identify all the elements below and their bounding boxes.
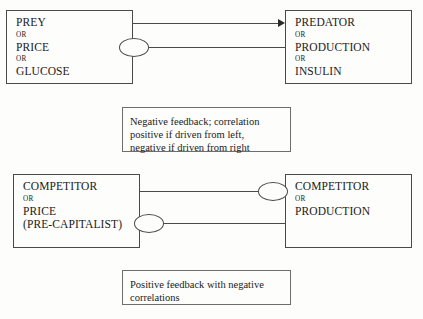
node-conjunction: or [16, 54, 128, 65]
diagram-canvas: PREY or PRICE or GLUCOSE PREDATOR or PRO… [0, 0, 423, 319]
node-conjunction: or [295, 194, 407, 205]
caption-line: positive if driven from left, [130, 128, 290, 141]
arrowhead-icon [278, 19, 285, 27]
node-term: PREDATOR [295, 16, 407, 30]
connector-line-prey-predator-arrow [133, 23, 279, 24]
node-label-group: PREDATOR or PRODUCTION or INSULIN [295, 16, 407, 79]
caption-line: correlations [130, 291, 290, 304]
node-term: COMPETITOR [23, 180, 135, 194]
connector-line-predator-prey-ellipse [148, 47, 285, 48]
node-box-predator: PREDATOR or PRODUCTION or INSULIN [285, 10, 412, 84]
caption-line: Negative feedback; correlation [130, 115, 290, 128]
node-conjunction: or [23, 194, 135, 205]
node-term: PRODUCTION [295, 41, 407, 55]
node-box-competitor-production: COMPETITOR or PRODUCTION [285, 174, 412, 248]
node-box-prey: PREY or PRICE or GLUCOSE [6, 10, 133, 84]
caption-line: Positive feedback with negative [130, 278, 290, 291]
node-term: INSULIN [295, 65, 407, 79]
node-term: PRODUCTION [295, 205, 407, 219]
node-conjunction: or [295, 54, 407, 65]
node-term: PRICE [16, 41, 128, 55]
node-term: PREY [16, 16, 128, 30]
ellipse-marker-icon [258, 182, 288, 201]
node-label-group: PREY or PRICE or GLUCOSE [16, 16, 128, 79]
node-conjunction: or [295, 30, 407, 41]
ellipse-marker-icon [119, 38, 149, 57]
caption-box-positive-feedback: Positive feedback with negative correlat… [122, 270, 291, 305]
connector-line-competitor-lower [163, 223, 285, 224]
connector-line-competitor-upper [140, 191, 272, 192]
caption-box-negative-feedback: Negative feedback; correlation positive … [122, 107, 291, 152]
node-label-group: COMPETITOR or PRICE (PRE-CAPITALIST) [23, 180, 135, 232]
ellipse-marker-icon [134, 214, 164, 233]
node-term: (PRE-CAPITALIST) [23, 218, 135, 232]
caption-line: negative if driven from right [130, 141, 290, 154]
node-term: PRICE [23, 205, 135, 219]
node-term: GLUCOSE [16, 65, 128, 79]
node-box-competitor-price: COMPETITOR or PRICE (PRE-CAPITALIST) [13, 174, 140, 248]
node-conjunction: or [16, 30, 128, 41]
node-label-group: COMPETITOR or PRODUCTION [295, 180, 407, 218]
node-term: COMPETITOR [295, 180, 407, 194]
